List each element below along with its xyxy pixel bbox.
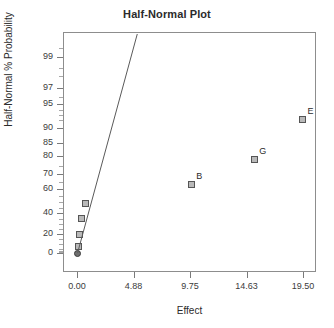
data-point-E[interactable]	[299, 116, 306, 123]
y-tick-60	[57, 189, 63, 190]
x-tick-label-9.75: 9.75	[165, 281, 215, 291]
data-point[interactable]	[78, 215, 85, 222]
y-tick-90	[57, 128, 63, 129]
y-tick-label-0: 0	[0, 247, 53, 257]
y-tick-minor	[59, 202, 63, 203]
data-point[interactable]	[74, 250, 81, 257]
y-tick-minor	[59, 208, 63, 209]
y-tick-95	[57, 104, 63, 105]
y-tick-minor	[59, 252, 63, 253]
y-tick-minor	[59, 120, 63, 121]
half-normal-plot: Half-Normal Plot Half-Normal % Probabili…	[0, 0, 334, 328]
data-point-label-G: G	[259, 146, 266, 156]
x-tick-label-19.50: 19.50	[278, 281, 328, 291]
y-tick-label-99: 99	[0, 51, 53, 61]
y-tick-minor	[59, 196, 63, 197]
y-tick-label-95: 95	[0, 98, 53, 108]
y-tick-label-70: 70	[0, 168, 53, 178]
y-tick-label-85: 85	[0, 137, 53, 147]
data-point-B[interactable]	[188, 181, 195, 188]
x-tick-label-14.63: 14.63	[222, 281, 272, 291]
data-point-label-B: B	[196, 171, 202, 181]
y-tick-20	[57, 234, 63, 235]
y-tick-minor	[59, 251, 63, 252]
y-tick-minor	[59, 229, 63, 230]
y-tick-minor	[59, 110, 63, 111]
y-tick-minor	[59, 244, 63, 245]
y-tick-label-97: 97	[0, 82, 53, 92]
y-tick-label-80: 80	[0, 150, 53, 160]
y-tick-minor	[59, 68, 63, 69]
y-tick-minor	[59, 166, 63, 167]
y-tick-label-20: 20	[0, 228, 53, 238]
x-tick-label-4.88: 4.88	[109, 281, 159, 291]
chart-title: Half-Normal Plot	[0, 8, 334, 20]
data-point[interactable]	[76, 231, 83, 238]
x-tick-9.75	[190, 272, 191, 278]
plot-area	[63, 32, 316, 272]
y-tick-minor	[59, 239, 63, 240]
y-tick-80	[57, 156, 63, 157]
y-tick-85	[57, 143, 63, 144]
y-tick-minor	[59, 182, 63, 183]
data-point[interactable]	[82, 200, 89, 207]
y-tick-minor	[59, 48, 63, 49]
y-tick-99	[57, 57, 63, 58]
y-tick-minor	[59, 115, 63, 116]
y-tick-label-40: 40	[0, 207, 53, 217]
y-tick-70	[57, 174, 63, 175]
y-tick-minor	[59, 76, 63, 77]
y-tick-minor	[59, 224, 63, 225]
x-tick-19.50	[303, 272, 304, 278]
y-tick-label-60: 60	[0, 183, 53, 193]
y-tick-97	[57, 88, 63, 89]
data-point[interactable]	[75, 243, 82, 250]
y-tick-minor	[59, 251, 63, 252]
data-point-G[interactable]	[251, 156, 258, 163]
y-tick-40	[57, 213, 63, 214]
y-tick-minor	[59, 249, 63, 250]
data-point-label-E: E	[307, 106, 313, 116]
x-tick-4.88	[134, 272, 135, 278]
x-tick-14.63	[247, 272, 248, 278]
y-tick-minor	[59, 219, 63, 220]
y-tick-label-90: 90	[0, 122, 53, 132]
y-tick-minor	[59, 97, 63, 98]
x-tick-0.00	[77, 272, 78, 278]
x-tick-label-0.00: 0.00	[52, 281, 102, 291]
x-axis-label: Effect	[63, 305, 316, 316]
